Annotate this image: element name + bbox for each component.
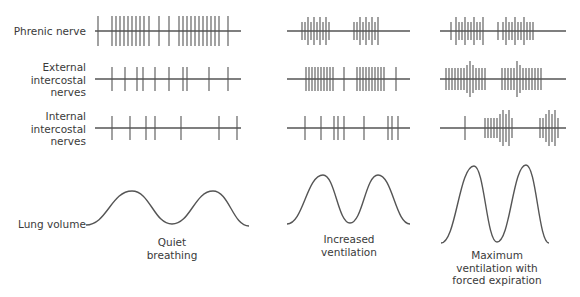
label-line: External: [0, 61, 86, 74]
caption-line: Increased: [289, 233, 409, 246]
label-lung-volume: Lung volume: [18, 218, 86, 231]
caption-line: forced expiration: [437, 274, 557, 287]
label-line: intercostal: [0, 123, 86, 136]
trace-phrenic-increased: [287, 17, 410, 45]
label-external-intercostal: External intercostal nerves: [0, 61, 86, 99]
label-line: nerves: [0, 135, 86, 148]
caption-line: Quiet: [112, 236, 232, 249]
label-line: Internal: [0, 110, 86, 123]
caption-line: ventilation with: [437, 262, 557, 275]
trace-external-maximum: [440, 61, 566, 97]
lung-volume-curve-quiet: [86, 191, 249, 226]
caption-increased-ventilation: Increased ventilation: [289, 233, 409, 258]
lung-volume-curves: [86, 165, 549, 243]
trace-internal-maximum: [440, 110, 566, 146]
caption-line: Maximum: [437, 249, 557, 262]
lung-volume-curve-maximum: [441, 165, 549, 243]
label-line: intercostal: [0, 74, 86, 87]
trace-external-quiet: [95, 67, 241, 91]
nerve-traces: [95, 16, 566, 146]
caption-line: ventilation: [289, 246, 409, 259]
lung-volume-curve-increased: [287, 175, 410, 224]
label-internal-intercostal: Internal intercostal nerves: [0, 110, 86, 148]
caption-maximum-ventilation: Maximum ventilation with forced expirati…: [437, 249, 557, 287]
label-phrenic-nerve: Phrenic nerve: [0, 25, 86, 38]
caption-line: breathing: [112, 249, 232, 262]
trace-internal-quiet: [95, 116, 241, 140]
trace-internal-increased: [287, 116, 410, 140]
trace-phrenic-quiet: [95, 16, 241, 46]
label-line: nerves: [0, 86, 86, 99]
trace-phrenic-maximum: [440, 17, 566, 45]
trace-external-increased: [287, 67, 410, 91]
caption-quiet-breathing: Quiet breathing: [112, 236, 232, 261]
